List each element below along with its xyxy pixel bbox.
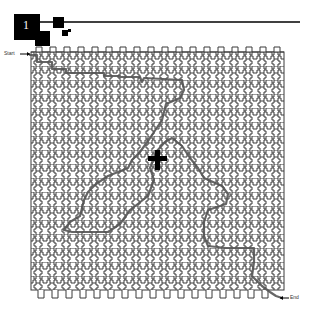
hud-block-tiny <box>62 30 68 36</box>
start-marker <box>20 52 30 56</box>
game-stage: 1 Start End <box>0 0 317 320</box>
hud <box>14 14 300 46</box>
hud-block-small <box>53 17 64 28</box>
maze-canvas[interactable] <box>0 0 317 320</box>
hud-block-dot <box>68 29 71 32</box>
maze-top-edge <box>31 47 284 52</box>
hud-block-large <box>35 31 50 46</box>
end-marker <box>280 296 289 300</box>
start-label: Start <box>4 51 15 56</box>
end-label: End <box>290 295 299 300</box>
level-number: 1 <box>23 19 29 31</box>
maze-bottom-edge <box>38 290 268 298</box>
maze-grid[interactable] <box>31 52 284 290</box>
